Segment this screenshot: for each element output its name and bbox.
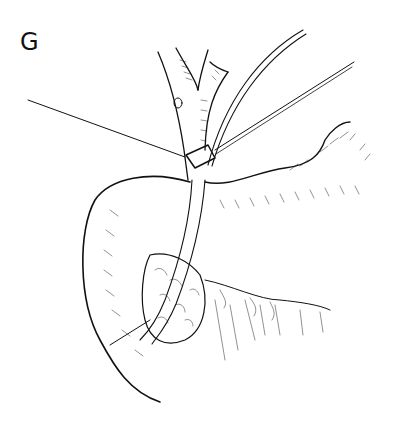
figure-canvas: G — [0, 0, 399, 440]
suture-line-left — [28, 100, 185, 157]
surgical-illustration — [0, 0, 399, 440]
bile-duct — [158, 48, 228, 180]
stomach — [83, 122, 370, 402]
lower-probe — [110, 320, 150, 345]
pancreas — [142, 254, 330, 360]
